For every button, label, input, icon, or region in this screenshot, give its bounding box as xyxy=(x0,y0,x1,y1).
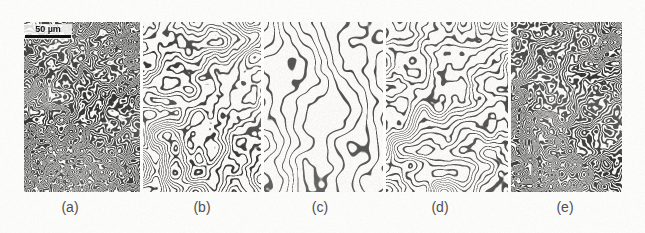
scale-bar-line xyxy=(25,35,71,38)
panel-a-image xyxy=(24,22,140,192)
panel-e xyxy=(511,22,622,192)
panel-d-image xyxy=(386,22,508,192)
panel-label-b: (b) xyxy=(193,199,210,215)
panel-strip xyxy=(24,22,622,192)
panel-label-a: (a) xyxy=(61,199,78,215)
scale-bar: 50 µm xyxy=(24,24,72,39)
panel-label-row: (a) (b) (c) (d) (e) xyxy=(0,199,645,225)
panel-b xyxy=(143,22,261,192)
panel-a xyxy=(24,22,140,192)
panel-label-d: (d) xyxy=(431,199,448,215)
panel-e-image xyxy=(511,22,622,192)
panel-c-image xyxy=(264,22,383,192)
panel-label-c: (c) xyxy=(312,199,328,215)
panel-label-e: (e) xyxy=(556,199,573,215)
scale-bar-label: 50 µm xyxy=(25,24,71,34)
figure-container: 50 µm (a) (b) (c) (d) (e) xyxy=(0,0,645,233)
panel-c xyxy=(264,22,383,192)
panel-b-image xyxy=(143,22,261,192)
panel-d xyxy=(386,22,508,192)
